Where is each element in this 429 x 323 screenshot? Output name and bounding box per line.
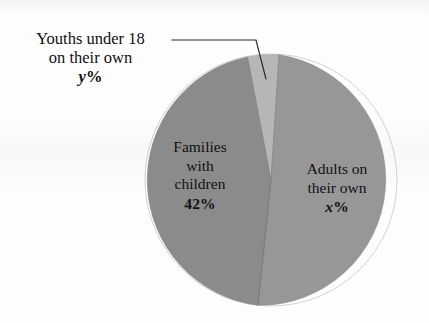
slice-value-families: 42% — [148, 195, 252, 214]
variable-x: x — [325, 198, 333, 215]
slice-label-families: Families with children 42% — [148, 138, 252, 213]
slice-label-adults: Adults on their own x% — [289, 160, 385, 217]
slice-label-families-line2: with — [148, 157, 252, 176]
slice-label-families-line3: children — [148, 175, 252, 194]
slice-label-adults-line1: Adults on — [289, 160, 385, 179]
slice-label-families-line1: Families — [148, 138, 252, 157]
percent-sign-x: % — [333, 198, 349, 215]
percent-sign-y: % — [86, 67, 103, 86]
slice-label-youths: Youths under 18 on their own y% — [8, 30, 173, 87]
slice-label-adults-line2: their own — [289, 179, 385, 198]
slice-label-youths-line1: Youths under 18 — [8, 30, 173, 49]
slice-value-youths: y% — [8, 68, 173, 87]
slice-value-adults: x% — [289, 198, 385, 217]
variable-y: y — [78, 67, 86, 86]
pie-chart-figure: Youths under 18 on their own y% Families… — [0, 0, 429, 323]
slice-label-youths-line2: on their own — [8, 49, 173, 68]
